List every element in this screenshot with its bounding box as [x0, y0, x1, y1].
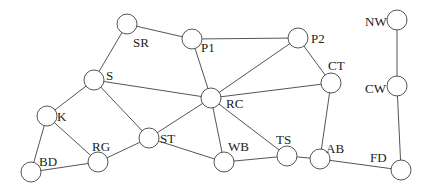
network-diagram: SRP1P2NWSCTCWRCKSTRGBDWBTSABFD [0, 0, 434, 191]
edge-rc-ts [211, 98, 287, 156]
node-cw [387, 76, 407, 96]
node-label-ts: TS [276, 132, 291, 147]
node-label-bd: BD [39, 154, 57, 169]
nodes-layer [21, 10, 411, 182]
node-k [37, 106, 57, 126]
node-ct [321, 73, 341, 93]
edge-p1-p2 [192, 38, 298, 39]
node-label-cw: CW [365, 81, 387, 96]
node-st [139, 128, 159, 148]
node-label-ab: AB [326, 141, 344, 156]
node-label-p2: P2 [311, 31, 325, 46]
node-label-sr: SR [133, 35, 149, 50]
edge-cw-fd [397, 86, 401, 170]
node-fd [391, 160, 411, 180]
edge-st-rc [149, 98, 211, 138]
node-bd [21, 162, 41, 182]
network-graph-svg: SRP1P2NWSCTCWRCKSTRGBDWBTSABFD [0, 0, 434, 191]
node-rg [88, 152, 108, 172]
node-p2 [288, 28, 308, 48]
node-label-nw: NW [365, 14, 387, 29]
node-label-k: K [57, 109, 67, 124]
node-nw [387, 10, 407, 30]
node-label-fd: FD [370, 150, 387, 165]
node-label-ct: CT [328, 58, 345, 73]
node-label-s: S [106, 68, 113, 83]
node-label-st: ST [160, 131, 175, 146]
edge-ab-fd [320, 159, 401, 170]
edge-s-st [94, 80, 149, 138]
node-s [84, 70, 104, 90]
node-sr [117, 14, 137, 34]
node-rc [201, 88, 221, 108]
node-label-rc: RC [226, 96, 243, 111]
node-label-wb: WB [228, 139, 249, 154]
node-ts [277, 146, 297, 166]
node-p1 [182, 29, 202, 49]
node-wb [214, 152, 234, 172]
node-label-rg: RG [92, 139, 110, 154]
node-label-p1: P1 [201, 40, 215, 55]
